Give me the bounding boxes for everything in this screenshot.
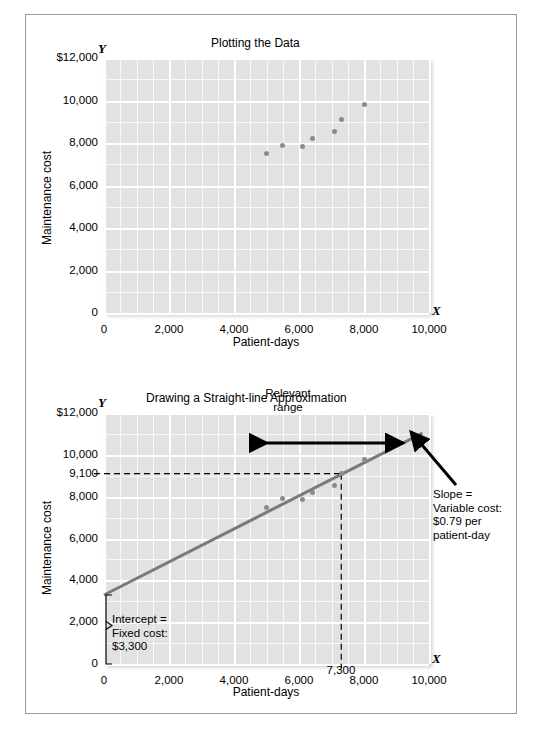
x-guide-label-7300: 7,300 — [327, 664, 356, 676]
x-axis-label-bottom: Patient-days — [233, 685, 300, 699]
data-point — [310, 136, 315, 141]
chart-plotting-the-data: Plotting the Data Y X Maintenance cost P… — [26, 15, 518, 355]
slope-annotation: Slope = Variable cost: $0.79 per patient… — [433, 488, 502, 542]
x-axis-letter-top: X — [432, 303, 441, 319]
gridline-v-minor — [250, 58, 251, 313]
gridline-v-minor — [218, 413, 219, 664]
chart-straight-line-approximation: Drawing a Straight-line Approximation Y … — [26, 370, 518, 715]
gridline-v-major — [234, 413, 236, 664]
figure-frame: Plotting the Data Y X Maintenance cost P… — [25, 14, 517, 714]
gridline-v-minor — [202, 58, 203, 313]
y-tick-label: 10,000 — [28, 449, 98, 461]
gridline-v-minor — [283, 58, 284, 313]
data-point — [332, 483, 337, 488]
data-point — [339, 117, 344, 122]
x-tick-label: 4,000 — [220, 323, 249, 335]
intercept-annotation: Intercept = Fixed cost: $3,300 — [112, 613, 168, 654]
gridline-v-minor — [137, 58, 138, 313]
relevant-range-line2: range — [265, 401, 310, 415]
gridline-v-major — [364, 58, 366, 313]
intercept-annotation-line-1: Intercept = — [112, 613, 168, 627]
y-tick-label: 9,100 — [28, 468, 98, 480]
gridline-v-minor — [413, 413, 414, 664]
y-tick-label: $12,000 — [28, 407, 98, 419]
x-tick-label: 10,000 — [411, 674, 446, 686]
y-tick-label: 0 — [28, 658, 98, 670]
gridline-v-major — [104, 58, 106, 313]
y-tick-label: $12,000 — [28, 52, 98, 64]
y-tick-label: 10,000 — [28, 95, 98, 107]
data-point — [362, 457, 367, 462]
gridline-v-minor — [397, 58, 398, 313]
gridline-v-minor — [332, 58, 333, 313]
x-tick-label: 6,000 — [285, 323, 314, 335]
y-tick-label: 0 — [28, 307, 98, 319]
gridline-v-minor — [348, 58, 349, 313]
x-tick-label: 4,000 — [220, 674, 249, 686]
x-tick-label: 2,000 — [155, 674, 184, 686]
data-point — [362, 102, 367, 107]
gridline-h-major — [104, 664, 429, 666]
gridline-v-major — [299, 58, 301, 313]
gridline-v-major — [169, 58, 171, 313]
chart-title-bottom: Drawing a Straight-line Approximation — [146, 391, 347, 405]
y-tick-label: 8,000 — [28, 491, 98, 503]
gridline-v-minor — [348, 413, 349, 664]
intercept-annotation-line-3: $3,300 — [112, 640, 168, 654]
slope-annotation-line-4: patient-day — [433, 529, 502, 543]
x-tick-label: 0 — [101, 323, 107, 335]
x-axis-letter-bottom: X — [432, 651, 441, 667]
x-tick-label: 10,000 — [411, 323, 446, 335]
intercept-annotation-line-2: Fixed cost: — [112, 627, 168, 641]
x-tick-label: 6,000 — [285, 674, 314, 686]
y-tick-label: 8,000 — [28, 137, 98, 149]
x-tick-label: 0 — [101, 674, 107, 686]
gridline-v-major — [299, 413, 301, 664]
gridline-v-major — [169, 413, 171, 664]
gridline-v-minor — [413, 58, 414, 313]
y-tick-label: 6,000 — [28, 533, 98, 545]
gridline-v-minor — [283, 413, 284, 664]
plot-area-top — [104, 58, 429, 313]
data-point — [310, 490, 315, 495]
gridline-v-minor — [397, 413, 398, 664]
gridline-v-major — [429, 58, 431, 313]
gridline-v-minor — [202, 413, 203, 664]
x-tick-label: 2,000 — [155, 323, 184, 335]
x-tick-label: 8,000 — [350, 323, 379, 335]
slope-annotation-line-1: Slope = — [433, 488, 502, 502]
x-axis-label-top: Patient-days — [233, 335, 300, 349]
chart-title-top: Plotting the Data — [211, 36, 300, 50]
figure-page: Plotting the Data Y X Maintenance cost P… — [0, 0, 540, 736]
y-axis-letter-bottom: Y — [98, 395, 106, 411]
data-point — [280, 143, 285, 148]
y-tick-label: 4,000 — [28, 574, 98, 586]
data-point — [264, 505, 269, 510]
gridline-v-minor — [153, 58, 154, 313]
gridline-v-major — [234, 58, 236, 313]
slope-annotation-line-2: Variable cost: — [433, 502, 502, 516]
y-tick-label: 2,000 — [28, 265, 98, 277]
gridline-v-minor — [120, 58, 121, 313]
gridline-v-minor — [380, 58, 381, 313]
relevant-range-line1: Relevant — [265, 387, 310, 401]
gridline-v-major — [429, 413, 431, 664]
gridline-v-minor — [185, 413, 186, 664]
gridline-v-minor — [380, 413, 381, 664]
gridline-v-minor — [315, 58, 316, 313]
gridline-v-major — [104, 413, 106, 664]
y-tick-label: 2,000 — [28, 616, 98, 628]
y-axis-letter-top: Y — [98, 41, 106, 57]
gridline-v-minor — [267, 58, 268, 313]
y-tick-label: 6,000 — [28, 180, 98, 192]
gridline-v-minor — [250, 413, 251, 664]
relevant-range-label: Relevant range — [265, 387, 310, 414]
gridline-v-minor — [218, 58, 219, 313]
gridline-v-minor — [267, 413, 268, 664]
y-tick-label: 4,000 — [28, 222, 98, 234]
data-point — [339, 471, 344, 476]
gridline-v-minor — [315, 413, 316, 664]
slope-annotation-line-3: $0.79 per — [433, 515, 502, 529]
gridline-v-major — [364, 413, 366, 664]
gridline-v-minor — [332, 413, 333, 664]
